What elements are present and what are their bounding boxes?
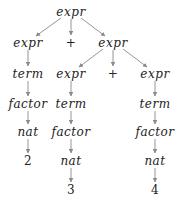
tree-node-factor: factor [8,98,47,110]
tree-node-expr: expr [98,37,127,49]
edge-arrow-icon [81,18,105,36]
parse-tree-diagram: exprexpr+exprtermexpr+exprfactortermterm… [0,0,182,205]
tree-node-expr: expr [140,68,169,80]
tree-node-2: 2 [24,155,32,167]
tree-node-plus: + [108,68,119,80]
tree-node-expr: expr [13,37,42,49]
tree-node-expr: expr [56,68,85,80]
tree-node-factor: factor [51,126,90,138]
tree-node-nat: nat [60,155,81,167]
tree-node-term: term [55,98,86,110]
edge-arrow-icon [79,49,103,67]
tree-node-expr: expr [56,6,85,18]
edge-arrow-icon [123,49,147,67]
tree-node-term: term [139,98,170,110]
tree-node-plus: + [66,37,77,49]
edge-arrow-icon [36,18,61,36]
tree-node-3: 3 [67,184,75,196]
tree-node-4: 4 [151,184,159,196]
tree-node-nat: nat [144,155,165,167]
tree-node-term: term [12,68,43,80]
tree-node-factor: factor [135,126,174,138]
tree-node-nat: nat [17,126,38,138]
